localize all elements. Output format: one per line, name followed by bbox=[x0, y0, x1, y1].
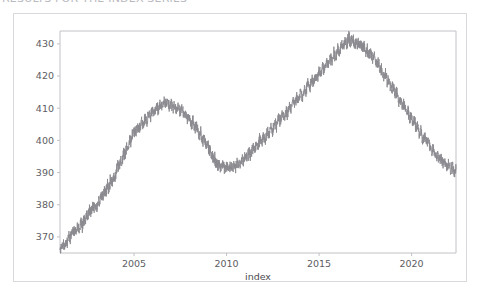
y-tick-label: 400 bbox=[36, 135, 54, 146]
plot-frame bbox=[60, 31, 456, 253]
y-tick-label: 430 bbox=[36, 38, 54, 49]
line-chart: 3703803904004104204302005201020152020ind… bbox=[14, 14, 468, 283]
x-tick-label: 2020 bbox=[399, 258, 423, 269]
y-tick-label: 390 bbox=[36, 167, 54, 178]
x-tick-label: 2010 bbox=[214, 258, 238, 269]
clipped-header-text: RESULTS FOR THE INDEX SERIES bbox=[0, 0, 480, 7]
x-axis-label: index bbox=[245, 271, 271, 282]
x-tick-label: 2015 bbox=[307, 258, 331, 269]
y-tick-label: 380 bbox=[36, 199, 54, 210]
y-tick-label: 410 bbox=[36, 103, 54, 114]
y-tick-label: 420 bbox=[36, 70, 54, 81]
clipped-header-label: RESULTS FOR THE INDEX SERIES bbox=[2, 0, 187, 5]
chart-figure: 3703803904004104204302005201020152020ind… bbox=[14, 14, 468, 283]
y-tick-label: 370 bbox=[36, 231, 54, 242]
series-line bbox=[60, 31, 456, 253]
chart-card: 3703803904004104204302005201020152020ind… bbox=[13, 13, 467, 282]
x-tick-label: 2005 bbox=[122, 258, 146, 269]
